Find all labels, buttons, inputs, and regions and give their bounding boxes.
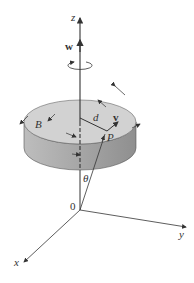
angle-label: θ [83,172,89,184]
distance-label: d [93,111,99,123]
point-label: P [106,131,114,143]
body-label: B [35,118,42,130]
y-axis-label: y [178,228,184,240]
diagram-canvas: z w B d v P θ 0 y x [0,0,194,283]
origin-label: 0 [70,200,76,212]
x-axis-label: x [13,256,19,268]
coordinate-axes [24,170,186,262]
angular-velocity-label: w [65,40,73,52]
z-axis-label: z [70,11,76,23]
velocity-label: v [113,111,119,123]
